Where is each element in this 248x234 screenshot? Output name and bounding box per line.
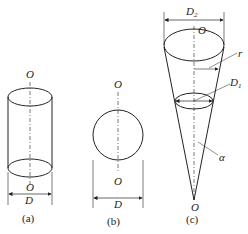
label-b-top-o: O [114, 78, 122, 90]
label-a-bottom-o: O [26, 181, 34, 193]
label-c-radius: r [238, 47, 243, 59]
label-c-angle: α [219, 151, 225, 163]
caption-c: (c) [186, 213, 199, 226]
diagram-canvas: O O D (a) O O D (b) D2 O r D1 α O (c) [0, 0, 248, 234]
caption-a: (a) [22, 212, 35, 225]
label-a-diameter: D [24, 194, 33, 206]
label-c-mid-diameter: D1 [229, 76, 241, 90]
label-a-top-o: O [26, 68, 34, 80]
label-c-top-o: O [198, 24, 206, 36]
label-b-bottom-o: O [114, 175, 122, 187]
label-c-bottom-o: O [191, 201, 199, 213]
label-b-diameter: D [113, 198, 122, 210]
figure-b-sphere [93, 92, 143, 208]
caption-b: (b) [107, 215, 120, 228]
figure-c-cone [164, 12, 237, 200]
label-c-top-diameter: D2 [185, 5, 198, 19]
